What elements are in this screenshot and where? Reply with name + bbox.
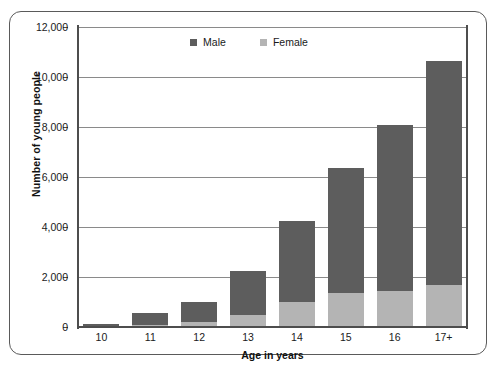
bar-segment-female xyxy=(328,293,364,327)
bar-stack xyxy=(377,125,413,328)
bar-stack xyxy=(426,61,462,327)
y-axis-tick-label: 2,000 xyxy=(10,272,68,283)
x-axis-tick-label: 13 xyxy=(223,331,273,343)
plot-right-border xyxy=(466,25,468,329)
y-axis-tick-labels: 02,0004,0006,0008,00010,00012,000 xyxy=(0,27,68,327)
bar-segment-female xyxy=(377,291,413,327)
bar-segment-male xyxy=(181,302,217,322)
bar-stack xyxy=(230,271,266,327)
bar-stack xyxy=(132,313,168,327)
bar-segment-male xyxy=(132,313,168,325)
bar-stack xyxy=(328,168,364,327)
chart-figure: Male Female Number of young people 02,00… xyxy=(0,0,498,371)
x-axis-tick-label: 10 xyxy=(76,331,126,343)
bar-segment-male xyxy=(377,125,413,291)
x-axis-tick-label: 16 xyxy=(370,331,420,343)
bar-segment-female xyxy=(279,302,315,327)
y-axis-tick-label: 6,000 xyxy=(10,172,68,183)
bar-segment-male xyxy=(426,61,462,285)
gridline xyxy=(77,27,468,28)
bar-segment-male xyxy=(279,221,315,302)
x-axis-tick-label: 15 xyxy=(321,331,371,343)
bar-stack xyxy=(279,221,315,327)
y-axis-tick-label: 8,000 xyxy=(10,122,68,133)
x-axis-tick-label: 17+ xyxy=(419,331,469,343)
x-axis-tick-label: 11 xyxy=(125,331,175,343)
gridline xyxy=(77,77,468,78)
bar-stack xyxy=(181,302,217,327)
y-axis-tick-label: 0 xyxy=(10,322,68,333)
plot-area xyxy=(77,27,468,327)
y-axis-tick-label: 10,000 xyxy=(10,72,68,83)
x-axis-tick-label: 14 xyxy=(272,331,322,343)
bar-segment-female xyxy=(426,285,462,328)
x-axis-tick-label: 12 xyxy=(174,331,224,343)
y-axis-tick-label: 4,000 xyxy=(10,222,68,233)
bar-segment-male xyxy=(328,168,364,293)
bar-segment-male xyxy=(230,271,266,315)
y-axis-line xyxy=(77,25,79,329)
x-axis-title: Age in years xyxy=(77,349,468,361)
y-axis-tick-label: 12,000 xyxy=(10,22,68,33)
x-axis-line xyxy=(77,326,468,328)
